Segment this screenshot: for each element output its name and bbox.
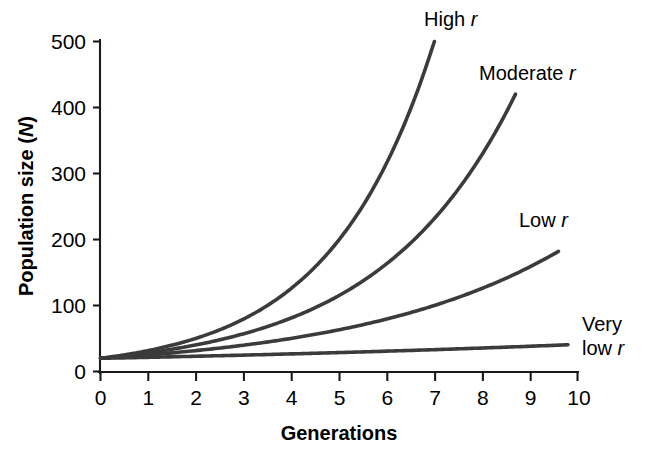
x-tick-label-0: 0 [95,386,107,409]
y-axis [93,40,100,373]
series-label-high-r-italic: r [471,8,479,30]
series-label-high-r-main: High [424,8,471,30]
series-label-very-low-r-line2: low r [582,337,626,359]
x-tick-label-6: 6 [381,386,393,409]
x-tick-labels: 0 1 2 3 4 5 6 7 8 9 10 [95,386,591,409]
curve-series-group [101,42,568,359]
series-label-low-r: Low r [519,209,569,231]
y-tick-label-500: 500 [51,30,86,53]
y-tick-label-100: 100 [51,294,86,317]
series-label-moderate-r-italic: r [569,62,577,84]
series-label-very-low-r-main: low [582,337,618,359]
svg-text:Population size (N): Population size (N) [15,116,37,296]
x-axis-title: Generations [281,422,398,444]
series-label-very-low-r-italic: r [618,337,626,359]
series-label-moderate-r-main: Moderate [479,62,569,84]
series-label-low-r-italic: r [561,209,569,231]
y-axis-title-tail: ) [15,116,37,123]
x-tick-label-9: 9 [525,386,537,409]
series-label-very-low-r-line1: Very [582,313,622,335]
y-axis-title-main: Population size ( [15,137,37,296]
y-axis-title: Population size (N) [15,116,37,296]
curve-low-r [101,251,559,358]
y-tick-label-300: 300 [51,162,86,185]
series-label-high-r: High r [424,8,479,30]
x-tick-label-8: 8 [477,386,489,409]
curve-moderate-r [101,94,516,358]
y-tick-label-200: 200 [51,228,86,251]
chart-svg: 500 400 300 200 100 0 0 1 2 3 4 5 6 7 8 … [0,0,649,459]
x-tick-label-10: 10 [567,386,590,409]
x-tick-label-5: 5 [334,386,346,409]
curve-high-r [101,42,435,359]
y-axis-title-italic-n: N [15,122,37,137]
series-label-low-r-main: Low [519,209,561,231]
x-axis [99,372,578,381]
x-tick-label-1: 1 [142,386,154,409]
x-tick-label-2: 2 [190,386,202,409]
y-tick-labels: 500 400 300 200 100 0 [51,30,86,383]
x-tick-label-7: 7 [429,386,441,409]
x-tick-label-4: 4 [286,386,298,409]
x-tick-label-3: 3 [238,386,250,409]
y-tick-label-400: 400 [51,96,86,119]
series-label-moderate-r: Moderate r [479,62,577,84]
y-tick-label-0: 0 [74,360,86,383]
population-growth-chart: 500 400 300 200 100 0 0 1 2 3 4 5 6 7 8 … [0,0,649,459]
